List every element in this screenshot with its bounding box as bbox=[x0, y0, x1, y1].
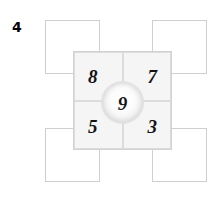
center-circle[interactable]: 9 bbox=[102, 82, 143, 123]
figure-number-label: 4 bbox=[12, 20, 22, 34]
grid-cell-value-bottom-right: 3 bbox=[148, 117, 158, 136]
puzzle-figure: 4 8 7 5 3 9 bbox=[0, 0, 222, 198]
center-circle-value: 9 bbox=[118, 94, 128, 113]
grid-cell-value-top-right: 7 bbox=[148, 67, 158, 86]
grid-cell-value-bottom-left: 5 bbox=[88, 117, 98, 136]
grid-cell-value-top-left: 8 bbox=[88, 67, 98, 86]
